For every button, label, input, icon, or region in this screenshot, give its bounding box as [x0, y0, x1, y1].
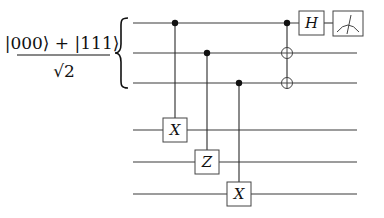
h-gate-label: H: [304, 14, 319, 32]
target-oplus-icon: [282, 48, 293, 59]
x-gate-label: X: [233, 185, 246, 203]
hadamard-gate: H: [299, 11, 324, 35]
x-gate-label: X: [169, 121, 182, 139]
state-numerator: |000⟩ + |111⟩: [5, 33, 120, 53]
control-dot-icon: [236, 80, 242, 86]
quantum-circuit: |000⟩ + |111⟩ √2 X Z X: [0, 0, 384, 218]
control-dot-icon: [284, 20, 290, 26]
cnot-gate: [282, 20, 293, 89]
meter-box: [333, 11, 363, 36]
z-gate-label: Z: [201, 153, 213, 171]
controlled-x-gate-2: X: [227, 80, 251, 206]
controlled-z-gate: Z: [195, 50, 219, 174]
input-state: |000⟩ + |111⟩ √2: [5, 33, 120, 81]
state-denominator: √2: [53, 61, 75, 81]
measurement-meter-icon: [333, 11, 363, 36]
wires: [133, 23, 357, 194]
target-oplus-icon: [282, 78, 293, 89]
control-dot-icon: [172, 20, 178, 26]
control-dot-icon: [204, 50, 210, 56]
controlled-x-gate-1: X: [163, 20, 187, 142]
brace-icon: [115, 18, 128, 88]
